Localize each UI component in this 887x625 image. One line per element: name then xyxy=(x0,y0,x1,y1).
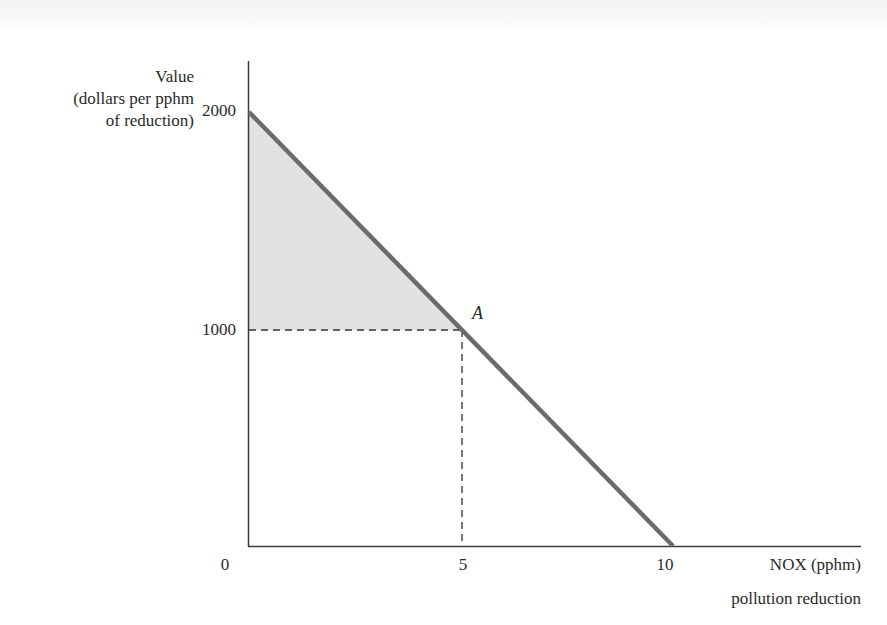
y-axis-label-line1: Value xyxy=(73,66,194,88)
x-tick-5: 5 xyxy=(459,554,468,576)
y-tick-1000: 1000 xyxy=(202,319,236,341)
y-axis-label-line3: of reduction) xyxy=(73,110,194,132)
y-axis-label: Value (dollars per pphm of reduction) xyxy=(73,66,194,132)
point-a-label: A xyxy=(472,302,483,324)
x-axis-label-line1: NOX (pphm) xyxy=(770,554,861,576)
x-tick-10: 10 xyxy=(657,554,674,576)
y-tick-2000: 2000 xyxy=(202,100,236,122)
x-axis-label-line2: pollution reduction xyxy=(731,588,861,610)
y-axis-label-line2: (dollars per pphm xyxy=(73,88,194,110)
x-tick-0: 0 xyxy=(221,554,230,576)
